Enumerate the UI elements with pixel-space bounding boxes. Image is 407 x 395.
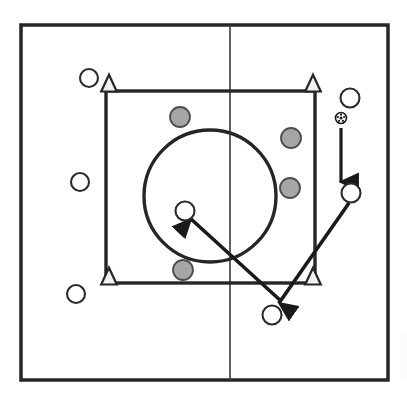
- attacker-bottom-passer: [263, 306, 282, 325]
- defender-bottom-center: [173, 260, 193, 280]
- soccer-ball-center-panel: [340, 117, 343, 120]
- soccer-ball-icon: [336, 113, 347, 124]
- attacker-left-top: [80, 69, 98, 87]
- soccer-ball-panel-1: [343, 116, 345, 118]
- attacker-center-target: [176, 202, 195, 221]
- drill-canvas: [0, 0, 407, 395]
- attacker-left-bottom: [67, 285, 85, 303]
- soccer-ball-panel-2: [342, 120, 344, 122]
- attacker-left-middle: [71, 173, 89, 191]
- soccer-ball-panel-0: [340, 114, 342, 116]
- soccer-ball-panel-3: [338, 120, 340, 122]
- defender-right-lower: [280, 178, 300, 198]
- outer-field-boundary: [21, 25, 388, 380]
- defender-right-upper: [281, 128, 301, 148]
- attacker-right-top: [341, 89, 360, 108]
- attacker-right-receiver: [342, 184, 361, 203]
- right-edge-artifact: [401, 334, 407, 378]
- defender-top-center: [170, 107, 190, 127]
- drill-diagram: [0, 0, 407, 395]
- soccer-ball-panel-4: [337, 116, 339, 118]
